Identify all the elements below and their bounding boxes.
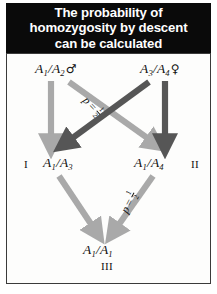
figure-title-banner: The probability of homozygosity by desce… [6,3,211,53]
gen2-allele1-subscript: 1 [142,162,147,172]
gen1-allele1-subscript: 1 [51,162,56,172]
pedigree-figure: The probability of homozygosity by desce… [0,0,217,294]
father-allele2-subscript: 2 [60,68,65,78]
gen2-allele2-subscript: 4 [159,162,164,172]
generation-label-III: III [101,260,113,272]
figure-title: The probability of homozygosity by desce… [30,5,188,52]
mother-allele1-subscript: 3 [148,68,153,78]
gen2-genotype-label: A1/A4 [134,155,164,171]
arrow-gen1-to-gen3-diagonal [59,176,95,230]
generation-label-I: I [24,158,28,170]
gen3-allele2-subscript: 1 [108,249,113,259]
father-allele1-subscript: 1 [43,68,48,78]
mother-allele2-subscript: 4 [165,68,170,78]
male-symbol-icon: ♂ [65,62,77,76]
female-symbol-icon: ♀ [170,62,180,76]
generation-label-II: II [191,158,199,170]
mother-genotype-label: A3/A4♀ [140,61,180,77]
diagram-panel: A1/A2♂ A3/A4♀ I A1/A3 II A1/A4 A1/A1 III… [6,53,211,284]
gen1-allele2-subscript: 3 [68,162,73,172]
gen1-genotype-label: A1/A3 [43,155,73,171]
gen3-genotype-label: A1/A1 [83,242,113,258]
father-genotype-label: A1/A2♂ [35,61,77,77]
gen3-allele1-subscript: 1 [91,249,96,259]
